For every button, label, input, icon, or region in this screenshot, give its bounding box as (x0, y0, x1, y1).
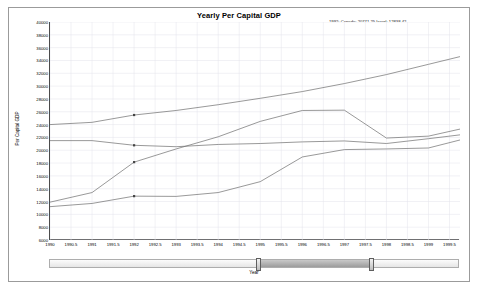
gdp-chart-window: Yearly Per Capital GDP 1992: Canada: 207… (8, 7, 470, 282)
y-tick-label: 8000 (18, 225, 48, 230)
x-tick-label: 1998 (382, 242, 391, 247)
x-tick-label: 1992 (129, 242, 138, 247)
chart-panel: Yearly Per Capital GDP 1992: Canada: 207… (9, 8, 469, 254)
x-tick-label: 1991.5 (107, 242, 120, 247)
y-tick-label: 10000 (18, 212, 48, 217)
x-tick-label: 1998.5 (401, 242, 414, 247)
x-tick-label: 1996 (298, 242, 307, 247)
x-tick-label: 1990 (45, 242, 54, 247)
y-tick-label: 38000 (18, 32, 48, 37)
x-axis-title: Year (49, 270, 459, 275)
y-tick-label: 12000 (18, 199, 48, 204)
slider-selected-range[interactable] (258, 260, 372, 267)
y-tick-label: 6000 (18, 238, 48, 243)
y-tick-label: 34000 (18, 58, 48, 63)
x-tick-label: 1999.5 (443, 242, 456, 247)
series-lines (50, 22, 460, 240)
x-tick-label: 1997 (340, 242, 349, 247)
x-tick-label: 1991 (87, 242, 96, 247)
x-tick-label: 1990.5 (65, 242, 78, 247)
plot-area: 4000038000360003400032000300002800026000… (49, 22, 459, 240)
slider-row: Year (9, 256, 469, 282)
y-tick-label: 26000 (18, 109, 48, 114)
x-tick-label: 1995.5 (275, 242, 288, 247)
x-tick-label: 1997.5 (359, 242, 372, 247)
x-tick-label: 1992.5 (149, 242, 162, 247)
x-tick-label: 1996.5 (317, 242, 330, 247)
y-tick-label: 32000 (18, 71, 48, 76)
x-tick-label: 1994.5 (233, 242, 246, 247)
y-tick-label: 24000 (18, 122, 48, 127)
x-tick-label: 1993 (171, 242, 180, 247)
year-range-slider[interactable] (49, 259, 459, 268)
x-tick-label: 1999 (424, 242, 433, 247)
x-tick-label: 1994 (214, 242, 223, 247)
y-tick-label: 14000 (18, 186, 48, 191)
y-tick-label: 36000 (18, 45, 48, 50)
y-tick-label: 28000 (18, 96, 48, 101)
y-tick-label: 20000 (18, 148, 48, 153)
y-tick-label: 40000 (18, 20, 48, 25)
y-tick-label: 16000 (18, 173, 48, 178)
x-tick-label: 1993.5 (191, 242, 204, 247)
y-tick-label: 18000 (18, 161, 48, 166)
y-tick-label: 30000 (18, 84, 48, 89)
x-tick-label: 1995 (256, 242, 265, 247)
y-tick-label: 22000 (18, 135, 48, 140)
